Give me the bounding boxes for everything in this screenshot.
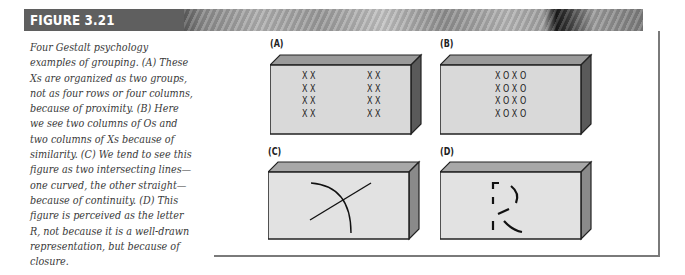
frame-border-bottom <box>214 255 660 257</box>
panel-a-proximity: (A) X X X X X X X X X X X X X X X X <box>270 38 440 138</box>
x-group-right: X X X X X X X X <box>367 70 381 120</box>
panel-c-continuity: (C) <box>268 146 438 246</box>
header-texture <box>184 9 643 31</box>
panel-b-similarity: (B) X O X O X O X O X O X O X O X O <box>440 38 610 138</box>
panel-d-closure: (D) <box>440 146 610 246</box>
box-a-illustration <box>270 38 440 138</box>
xo-columns: X O X O X O X O X O X O X O X O <box>495 70 526 120</box>
x-group-left: X X X X X X X X <box>302 70 316 120</box>
figure-number: FIGURE 3.21 <box>30 12 115 28</box>
box-c-illustration <box>268 146 438 246</box>
figure-caption: Four Gestalt psychology examples of grou… <box>30 40 193 269</box>
box-d-illustration <box>440 146 610 246</box>
figure-header-bar: FIGURE 3.21 <box>24 9 643 31</box>
frame-border-right <box>658 31 660 257</box>
